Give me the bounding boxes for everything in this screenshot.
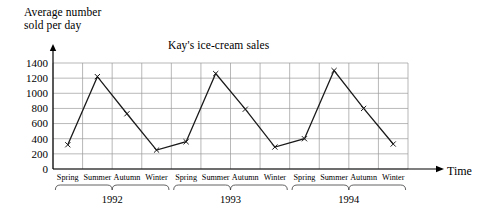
y-tick-1200: 1200 — [26, 72, 49, 84]
year-bracket-1994 — [292, 185, 406, 190]
data-point-marker — [124, 111, 129, 116]
year-group-labels: 199219931994 — [102, 194, 360, 205]
x-tick-label-summer-9: Summer — [320, 173, 348, 182]
vertical-gridlines — [53, 63, 408, 169]
y-tick-200: 200 — [32, 148, 49, 160]
data-point-marker — [65, 142, 70, 147]
x-tick-label-autumn-10: Autumn — [350, 173, 377, 182]
x-tick-label-spring-0: Spring — [57, 173, 79, 182]
x-tick-label-spring-8: Spring — [294, 173, 316, 182]
y-tick-labels: 0200400600800100012001400 — [26, 57, 49, 175]
year-bracket-1992 — [55, 185, 169, 190]
y-tick-600: 600 — [32, 117, 49, 129]
x-tick-label-autumn-2: Autumn — [114, 173, 141, 182]
x-tick-label-winter-7: Winter — [264, 173, 287, 182]
year-label-1993: 1993 — [220, 194, 241, 205]
chart-figure: Average number sold per day Kay's ice-cr… — [0, 0, 482, 213]
data-point-marker — [243, 107, 248, 112]
data-point-marker — [213, 71, 218, 76]
chart-plot-area: 0200400600800100012001400 SpringSummerAu… — [0, 0, 482, 213]
data-point-marker — [331, 68, 336, 73]
x-tick-label-spring-4: Spring — [175, 173, 197, 182]
y-tick-400: 400 — [32, 133, 49, 145]
x-tick-label-summer-5: Summer — [202, 173, 230, 182]
year-label-1994: 1994 — [338, 194, 360, 205]
x-tick-label-summer-1: Summer — [84, 173, 112, 182]
x-tick-label-autumn-6: Autumn — [232, 173, 259, 182]
y-tick-800: 800 — [32, 102, 49, 114]
y-tick-1000: 1000 — [26, 87, 49, 99]
y-tick-0: 0 — [43, 163, 49, 175]
x-tick-labels: SpringSummerAutumnWinterSpringSummerAutu… — [57, 173, 405, 182]
data-point-marker — [391, 141, 396, 146]
y-tick-1400: 1400 — [26, 57, 49, 69]
year-bracket-1993 — [174, 185, 288, 190]
year-group-brackets — [55, 185, 405, 190]
year-label-1992: 1992 — [102, 194, 123, 205]
x-tick-label-winter-3: Winter — [145, 173, 168, 182]
x-tick-label-winter-11: Winter — [382, 173, 405, 182]
